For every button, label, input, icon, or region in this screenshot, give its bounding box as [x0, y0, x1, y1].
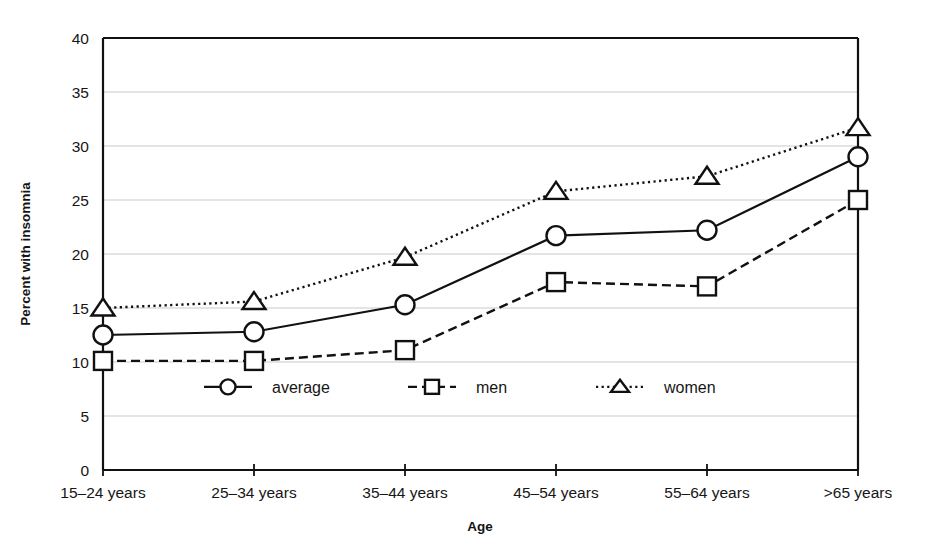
x-category-label: 45–54 years: [513, 484, 599, 501]
marker-women: [92, 299, 115, 316]
chart-legend: averagemenwomen: [204, 379, 716, 396]
marker-women: [847, 118, 870, 135]
chart-canvas: 0510152025303540 15–24 years25–34 years3…: [0, 0, 927, 560]
marker-average: [698, 221, 717, 240]
insomnia-by-age-chart: 0510152025303540 15–24 years25–34 years3…: [0, 0, 927, 560]
x-category-label: 25–34 years: [211, 484, 297, 501]
y-tick-label: 15: [72, 300, 89, 317]
marker-men: [94, 352, 112, 370]
gridlines: [103, 92, 858, 416]
marker-average: [396, 295, 415, 314]
y-tick-label: 30: [72, 138, 90, 155]
y-tick-label: 0: [80, 462, 89, 479]
x-category-label: 15–24 years: [60, 484, 146, 501]
legend-marker-average: [221, 379, 236, 394]
marker-average: [245, 322, 264, 341]
series-line-women: [103, 128, 858, 308]
x-category-label: 55–64 years: [664, 484, 750, 501]
marker-average: [547, 226, 566, 245]
y-tick-label: 25: [72, 192, 89, 209]
marker-women: [394, 248, 417, 265]
marker-average: [849, 147, 868, 166]
x-category-labels: 15–24 years25–34 years35–44 years45–54 y…: [60, 484, 892, 501]
series-lines: [103, 128, 858, 361]
marker-women: [545, 182, 568, 199]
y-tick-label: 10: [72, 354, 90, 371]
x-category-label: 35–44 years: [362, 484, 448, 501]
legend-label-women: women: [663, 379, 716, 396]
marker-women: [696, 167, 719, 184]
marker-men: [245, 352, 263, 370]
y-tick-label: 5: [80, 408, 89, 425]
y-tick-labels: 0510152025303540: [72, 30, 90, 479]
y-tick-label: 20: [72, 246, 90, 263]
marker-average: [94, 326, 113, 345]
y-tick-label: 40: [72, 30, 90, 47]
legend-label-average: average: [272, 379, 330, 396]
y-axis-title: Percent with insomnia: [18, 182, 33, 326]
series-line-men: [103, 200, 858, 361]
x-axis-title: Age: [467, 519, 493, 534]
y-tick-label: 35: [72, 84, 89, 101]
marker-men: [396, 341, 414, 359]
legend-label-men: men: [476, 379, 507, 396]
legend-marker-men: [425, 380, 439, 394]
marker-women: [243, 292, 266, 309]
marker-men: [849, 191, 867, 209]
marker-men: [547, 273, 565, 291]
x-category-label: >65 years: [824, 484, 893, 501]
marker-men: [698, 277, 716, 295]
